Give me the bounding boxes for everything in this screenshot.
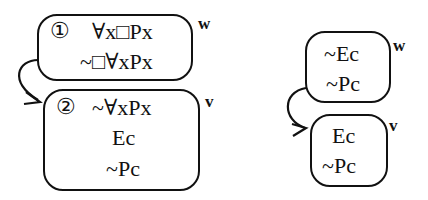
right-v-label: v bbox=[389, 116, 398, 136]
left-v-line-2: Ec bbox=[112, 127, 135, 149]
left-v-line-3: ~Pc bbox=[106, 158, 140, 180]
left-w-label: w bbox=[198, 14, 210, 34]
left-w-number: ① bbox=[50, 20, 70, 42]
right-w-line-2: ~Pc bbox=[326, 73, 360, 95]
right-w-label: w bbox=[393, 36, 405, 56]
left-w-line-1: ∀x□Px bbox=[92, 21, 153, 43]
left-w-line-2: ~□∀xPx bbox=[80, 51, 153, 73]
left-v-number: ② bbox=[56, 96, 76, 118]
right-v-line-2: ~Pc bbox=[322, 155, 356, 177]
left-v-line-1: ~∀xPx bbox=[92, 97, 151, 119]
right-w-line-1: ~Ec bbox=[324, 43, 359, 65]
left-v-label: v bbox=[205, 92, 214, 112]
right-v-line-1: Ec bbox=[332, 125, 355, 147]
